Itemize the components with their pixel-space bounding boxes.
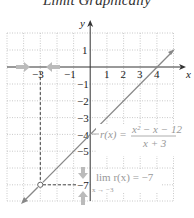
limit-subscript: x → −3 [92, 186, 114, 194]
function-numerator: x² − x − 12 [131, 123, 182, 135]
y-tick-label: 1 [82, 44, 88, 56]
y-tick-label: −3 [77, 112, 89, 124]
y-tick-label: −7 [77, 179, 89, 191]
x-axis-label: x [185, 68, 191, 80]
x-tick-label: 2 [121, 68, 127, 80]
x-tick-label: 1 [104, 68, 110, 80]
x-tick-label: −1 [64, 68, 76, 80]
function-lhs: r(x) = [100, 128, 127, 141]
left-approach-arrow-icon [16, 62, 30, 72]
function-denominator: x + 3 [142, 137, 167, 149]
right-approach-arrow-icon [46, 62, 60, 72]
graph: x y −3 −1 1 2 3 4 1 −1 −2 −3 −4 −5 −7 [0, 0, 194, 218]
x-tick-label: 3 [137, 68, 143, 80]
up-approach-arrow-icon [78, 191, 88, 205]
y-tick-label: −2 [77, 95, 89, 107]
y-tick-label: −1 [77, 78, 89, 90]
x-tick-label: −3 [32, 68, 44, 80]
y-tick-label: −4 [77, 129, 89, 141]
down-approach-arrow-icon [78, 167, 88, 179]
hole-point [38, 182, 43, 187]
y-axis-label: y [79, 17, 85, 29]
dashed-guides [40, 72, 76, 185]
limit-expression: lim r(x) = −7 [96, 171, 154, 184]
